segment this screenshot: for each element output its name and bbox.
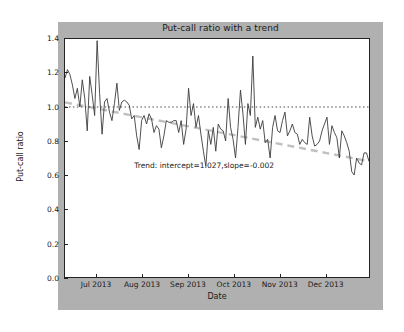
y-tick-label: 0.2 bbox=[35, 239, 59, 248]
y-tick-label: 1.4 bbox=[35, 34, 59, 43]
y-tick-label: 0.8 bbox=[35, 136, 59, 145]
data-line bbox=[65, 41, 369, 175]
x-tick-mark bbox=[142, 274, 143, 278]
y-tick-mark bbox=[64, 107, 68, 108]
y-tick-label: 0.4 bbox=[35, 205, 59, 214]
y-tick-label: 0.0 bbox=[35, 274, 59, 283]
plot-area: Trend: intercept=1.027,slope=-0.002 bbox=[64, 38, 370, 278]
x-tick-label: Sep 2013 bbox=[170, 280, 206, 289]
x-tick-label: Jul 2013 bbox=[81, 280, 112, 289]
x-tick-mark bbox=[280, 274, 281, 278]
x-tick-mark bbox=[188, 274, 189, 278]
y-tick-label: 0.6 bbox=[35, 171, 59, 180]
x-tick-mark bbox=[234, 274, 235, 278]
y-axis-label: Put-call ratio bbox=[16, 107, 25, 207]
x-tick-mark bbox=[326, 274, 327, 278]
trend-line bbox=[65, 102, 369, 161]
x-tick-label: Aug 2013 bbox=[124, 280, 160, 289]
y-tick-mark bbox=[64, 175, 68, 176]
y-tick-mark bbox=[64, 244, 68, 245]
x-tick-label: Oct 2013 bbox=[217, 280, 251, 289]
x-tick-label: Nov 2013 bbox=[262, 280, 298, 289]
chart-title: Put-call ratio with a trend bbox=[58, 23, 383, 33]
y-tick-label: 1.0 bbox=[35, 102, 59, 111]
x-tick-label: Dec 2013 bbox=[308, 280, 344, 289]
trend-line-group bbox=[65, 102, 369, 161]
figure-canvas: Put-call ratio with a trend Trend: inter… bbox=[58, 22, 383, 310]
trend-annotation: Trend: intercept=1.027,slope=-0.002 bbox=[134, 161, 274, 170]
y-tick-mark bbox=[64, 141, 68, 142]
y-tick-label: 1.2 bbox=[35, 68, 59, 77]
y-tick-mark bbox=[64, 72, 68, 73]
y-tick-mark bbox=[64, 38, 68, 39]
chart-svg bbox=[65, 39, 369, 277]
x-tick-mark bbox=[96, 274, 97, 278]
y-tick-mark bbox=[64, 209, 68, 210]
data-line-group bbox=[65, 41, 369, 175]
y-tick-mark bbox=[64, 278, 68, 279]
x-axis-label: Date bbox=[64, 292, 370, 301]
